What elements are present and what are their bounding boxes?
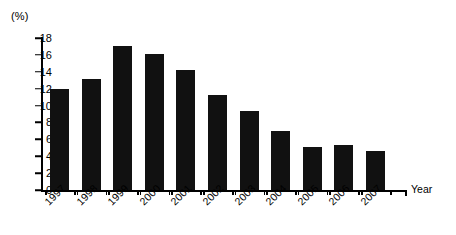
y-tick-mark — [35, 71, 41, 73]
x-tick-mark — [169, 190, 171, 195]
bar — [113, 46, 132, 190]
x-axis-end-tick — [405, 190, 407, 196]
y-tick-mark — [35, 37, 41, 39]
bar — [145, 54, 164, 190]
x-tick-mark — [264, 190, 266, 195]
y-tick-mark — [35, 122, 41, 124]
y-tick-label: 18 — [40, 32, 52, 44]
x-tick-mark — [232, 190, 234, 195]
y-tick-mark — [35, 172, 41, 174]
x-tick-mark — [358, 190, 360, 195]
x-tick-mark — [390, 190, 392, 195]
x-tick-label: 2007 — [358, 182, 384, 208]
x-tick-label: 2003 — [232, 182, 258, 208]
y-tick-mark — [35, 88, 41, 90]
x-tick-label: 2000 — [137, 182, 163, 208]
bar — [271, 131, 290, 190]
y-tick-mark — [35, 139, 41, 141]
x-tick-mark — [137, 190, 139, 195]
x-tick-label: 1998 — [74, 182, 100, 208]
x-tick-mark — [327, 190, 329, 195]
x-tick-mark — [106, 190, 108, 195]
y-tick-label: 16 — [40, 49, 52, 61]
bar-chart: (%) 024681012141618 19971998199920002001… — [0, 0, 456, 235]
x-tick-mark — [74, 190, 76, 195]
bar — [82, 79, 101, 190]
bar — [176, 70, 195, 190]
y-tick-mark — [35, 105, 41, 107]
y-tick-label: 14 — [40, 66, 52, 78]
x-tick-mark — [200, 190, 202, 195]
y-tick-mark — [35, 155, 41, 157]
y-tick-mark — [35, 54, 41, 56]
x-tick-label: 2002 — [200, 182, 226, 208]
y-tick-mark — [35, 189, 41, 191]
bar — [240, 111, 259, 190]
x-axis-title: Year — [411, 183, 432, 195]
x-tick-label: 2005 — [295, 182, 321, 208]
x-tick-mark — [295, 190, 297, 195]
bar — [208, 95, 227, 190]
plot-area: 024681012141618 199719981999200020012002… — [0, 0, 456, 235]
bar — [50, 89, 69, 190]
